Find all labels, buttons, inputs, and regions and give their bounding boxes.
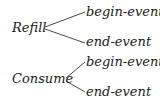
- node-refill: Refill: [12, 21, 46, 35]
- edge-refill-begin: [45, 12, 85, 27]
- node-refill-end-event: end-event: [86, 35, 151, 49]
- node-consume: Consume: [12, 72, 73, 86]
- node-refill-begin-event: begin-event: [86, 5, 160, 19]
- event-tree-diagram: Refill begin-event end-event Consume beg…: [0, 0, 160, 106]
- edge-refill-end: [45, 29, 85, 43]
- node-consume-begin-event: begin-event: [86, 55, 160, 69]
- node-consume-end-event: end-event: [86, 85, 151, 99]
